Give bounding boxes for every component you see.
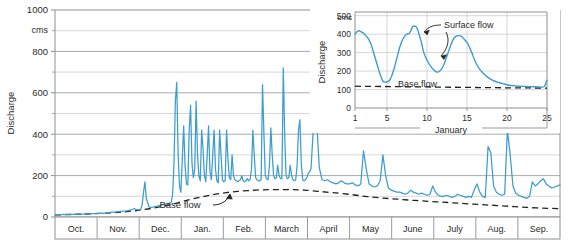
inset-y-tick-label: 300 [337,48,351,58]
inset-y-tick-label: 0 [346,103,351,113]
month-label: Dec. [151,224,170,234]
inset-x-tick-label: 1 [353,113,358,123]
inset-x-tick-label: 10 [422,113,432,123]
main-y-tick-label: 1000 [27,4,48,15]
inset-y-axis-title: Discharge [316,41,327,84]
inset-y-tick-label: 400 [337,29,351,39]
main-y-axis-ticks [51,10,55,217]
main-y-tick-label: 800 [32,46,48,57]
inset-surfaceflow-annotation-label: Surface flow [444,20,494,30]
main-y-axis-title: Discharge [5,92,16,135]
inset-x-tick-label: 5 [385,113,390,123]
main-baseflow-annotation-label: Base flow [159,199,200,210]
month-label: July [447,224,464,234]
hydrograph-figure: 02004006008001000 cms Discharge Base flo… [0,0,568,250]
month-label: Aug. [488,224,507,234]
month-label: Nov. [109,224,127,234]
month-label: Sep. [530,224,549,234]
inset-x-axis-title: January [435,125,468,135]
hydrograph-svg: 02004006008001000 cms Discharge Base flo… [0,0,568,250]
inset-x-tick-label: 20 [502,113,512,123]
month-label: Feb. [235,224,253,234]
inset-y-unit-label: cms [337,13,352,22]
inset-y-tick-label: 100 [337,85,351,95]
month-label: April [320,224,338,234]
inset-y-tick-label: 200 [337,66,351,76]
main-y-tick-label: 400 [32,129,48,140]
main-y-unit-label: cms [32,25,49,35]
main-y-tick-label: 0 [43,211,48,222]
month-label: May [362,224,380,234]
inset-plot: 0100200300400500 1510152025 cms Discharg… [310,5,560,135]
month-label: Oct. [68,224,85,234]
inset-x-tick-label: 15 [462,113,472,123]
main-y-axis-tick-labels: 02004006008001000 [27,4,48,222]
inset-baseflow-annotation-label: Base flow [398,79,438,89]
month-label: March [274,224,299,234]
month-label: June [403,224,423,234]
month-label: Jan. [194,224,211,234]
main-y-tick-label: 600 [32,87,48,98]
main-y-tick-label: 200 [32,170,48,181]
